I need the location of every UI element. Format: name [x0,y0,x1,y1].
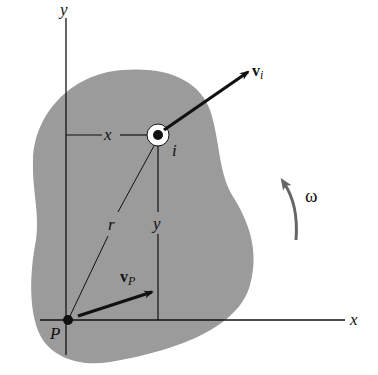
point-i-label: i [172,141,177,160]
point-p-dot [63,315,73,325]
point-i-dot [153,130,163,140]
r-label: r [108,215,115,234]
rigid-body-diagram: y x x y r i P vi vP ω [0,0,378,375]
point-p-label: P [49,324,60,343]
y-dimension-label: y [151,214,161,233]
y-axis-label: y [58,0,68,19]
x-axis-label: x [349,310,358,329]
vi-label: vi [252,62,263,82]
omega-label: ω [305,185,318,206]
x-dimension-label: x [103,125,112,144]
omega-rotation-arrow [284,183,297,240]
